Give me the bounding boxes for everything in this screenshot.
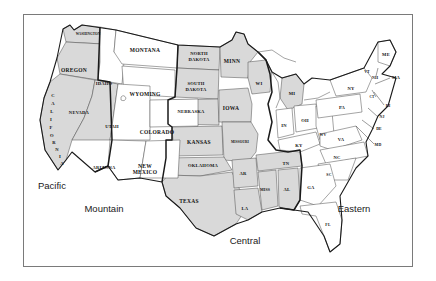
state-label-MA: MA: [392, 75, 401, 80]
zone-label-mountain: Mountain: [84, 203, 123, 214]
state-label-CA-letter-3: I: [50, 117, 52, 122]
state-label-CA-letter-4: F: [49, 125, 52, 130]
state-shape-FL: [300, 202, 342, 252]
state-label-WV: WV: [319, 133, 326, 137]
state-label-CA-letter-6: R: [52, 140, 56, 145]
great-salt-lake-icon: [121, 96, 126, 101]
state-label-AZ: ARIZONA: [92, 165, 116, 170]
state-label-CA-letter-0: C: [51, 93, 55, 98]
state-label-KS: KANSAS: [187, 139, 211, 145]
zone-label-central: Central: [230, 235, 261, 246]
state-shape-TN: [256, 150, 302, 171]
state-label-ID: IDAHO: [96, 81, 113, 86]
leader-line-NJ: [368, 108, 378, 117]
state-label-NY: NY: [347, 86, 355, 91]
state-label-MT: MONTANA: [130, 47, 160, 53]
state-label-TN: TN: [283, 161, 290, 166]
state-label-CA-letter-2: L: [50, 109, 53, 114]
state-label-CA-letter-9: A: [60, 161, 64, 166]
state-label-CT: CT: [370, 95, 376, 99]
state-label-SD: SOUTHDAKOTA: [185, 81, 207, 92]
state-label-CA-letter-1: A: [51, 101, 55, 106]
state-label-OR: OREGON: [61, 67, 87, 73]
zone-label-eastern: Eastern: [338, 203, 371, 214]
state-label-AR: AR: [239, 171, 247, 176]
state-label-WA: WASHINGTON: [76, 32, 101, 36]
state-label-NE: NEBRASKA: [177, 109, 205, 114]
state-label-MI: MI: [289, 91, 296, 96]
state-label-CA-letter-8: I: [59, 154, 61, 159]
state-shape-GA: [300, 164, 336, 206]
state-label-CO: COLORADO: [140, 129, 175, 135]
state-label-PA: PA: [339, 105, 346, 110]
state-label-MS: MISS: [260, 188, 270, 192]
state-label-SC: SC: [326, 173, 331, 177]
time-zone-map-figure: WASHINGTONOREGONNEVADAIDAHOMONTANAWYOMIN…: [0, 0, 436, 281]
lake-michigan-outline: [272, 72, 280, 108]
state-label-IA: IOWA: [223, 105, 239, 111]
state-label-WY: WYOMING: [129, 91, 161, 97]
state-label-NV: NEVADA: [69, 110, 90, 115]
state-label-NH: NH: [372, 76, 378, 80]
state-label-IN: IN: [281, 123, 287, 128]
state-label-VT: VT: [364, 70, 370, 74]
state-label-UT: UTAH: [105, 124, 119, 129]
state-label-CA-letter-7: N: [55, 147, 59, 152]
state-label-ME: ME: [382, 52, 390, 57]
state-shape-OR: [57, 42, 103, 80]
state-label-OH: OH: [301, 118, 309, 123]
state-label-FL: FL: [325, 223, 331, 227]
state-label-TX: TEXAS: [179, 198, 199, 204]
state-label-CA-letter-5: O: [50, 133, 54, 138]
state-label-OK: OKLAHOMA: [188, 163, 218, 168]
state-label-MN: MINN: [224, 58, 240, 64]
zone-label-pacific: Pacific: [38, 180, 66, 191]
state-label-LA: LA: [242, 206, 249, 211]
state-label-VA: VA: [338, 137, 345, 142]
state-label-WI: WI: [256, 81, 263, 86]
us-time-zone-map: WASHINGTONOREGONNEVADAIDAHOMONTANAWYOMIN…: [0, 0, 436, 281]
leader-line-RI: [374, 92, 384, 105]
state-shape-LA: [234, 188, 262, 220]
state-label-RI: RI: [386, 104, 391, 108]
state-label-GA: GA: [307, 185, 315, 190]
state-label-MO: MISSOURI: [231, 140, 250, 144]
state-label-DE: DE: [376, 127, 382, 131]
state-label-AL: AL: [284, 187, 291, 192]
state-label-KY: KY: [295, 143, 303, 148]
leader-line-DE: [362, 120, 374, 129]
state-label-NJ: NJ: [379, 115, 384, 119]
state-label-MD: MD: [375, 143, 382, 147]
state-label-NC: NC: [333, 155, 340, 160]
state-label-ND: NORTHDAKOTA: [188, 51, 210, 62]
leader-line-NH: [376, 68, 378, 76]
